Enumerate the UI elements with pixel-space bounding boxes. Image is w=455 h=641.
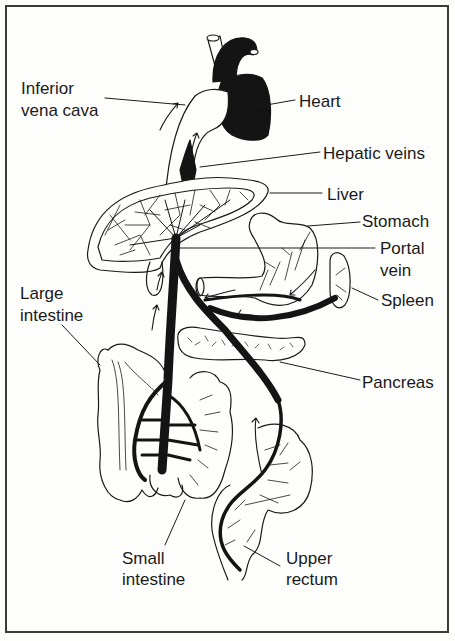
label-small-intestine-line1: Small [122, 548, 165, 569]
label-liver: Liver [327, 184, 364, 205]
label-small-intestine-line2: intestine [122, 569, 185, 590]
label-spleen: Spleen [381, 290, 434, 311]
label-hepatic-veins: Hepatic veins [323, 143, 425, 164]
label-portal-vein-line1: Portal [380, 238, 424, 259]
large-intestine-shape [98, 344, 165, 501]
label-heart: Heart [299, 91, 341, 112]
label-large-intestine-line1: Large [20, 283, 63, 304]
label-stomach: Stomach [362, 211, 429, 232]
label-pancreas: Pancreas [362, 372, 434, 393]
label-inferior-vena-cava-line2: vena cava [21, 100, 99, 121]
label-upper-rectum-line1: Upper [286, 548, 332, 569]
label-large-intestine-line2: intestine [20, 305, 83, 326]
label-inferior-vena-cava-line1: Inferior [21, 78, 74, 99]
label-upper-rectum-line2: rectum [286, 569, 338, 590]
pancreas-shape [178, 327, 305, 360]
label-portal-vein-line2: vein [380, 260, 411, 281]
